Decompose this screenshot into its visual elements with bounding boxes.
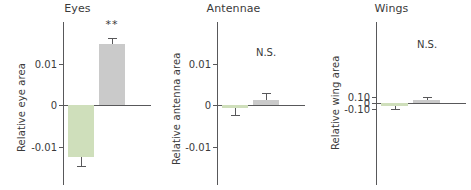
y-tick-wings-1 [372, 103, 376, 104]
y-axis-line-eyes [63, 22, 64, 185]
y-tick-wings-2 [372, 109, 376, 110]
y-tick-eyes-1 [59, 105, 63, 106]
y-tick-label-eyes-2: -0.01 [15, 142, 57, 153]
y-tick-label-eyes-1: 0 [15, 100, 57, 111]
y-tick-antennae-1 [213, 105, 217, 106]
panel-title-wings: Wings [312, 2, 471, 15]
y-tick-antennae-0 [213, 64, 217, 65]
y-tick-wings-0 [372, 97, 376, 98]
error-bar-line-eyes-green [81, 157, 82, 166]
y-tick-eyes-2 [59, 147, 63, 148]
significance-label-wings: N.S. [417, 39, 437, 50]
error-bar-cap-antennae-green [231, 115, 240, 116]
bar-eyes-green [68, 105, 94, 157]
bar-eyes-gray [99, 44, 125, 105]
y-tick-label-antennae-2: -0.01 [169, 142, 211, 153]
y-tick-label-eyes-0: 0.01 [15, 59, 57, 70]
error-bar-line-antennae-gray [266, 93, 267, 99]
error-bar-cap-wings-green [391, 109, 400, 110]
y-tick-eyes-0 [59, 64, 63, 65]
error-bar-cap-wings-gray [423, 97, 432, 98]
bar-antennae-gray [253, 100, 279, 105]
y-tick-label-antennae-0: 0.01 [169, 59, 211, 70]
panel-antennae: AntennaeRelative antenna area0.010-0.01N… [155, 0, 312, 190]
significance-label-antennae: N.S. [256, 47, 276, 58]
figure: EyesRelative eye area0.010-0.01**Antenna… [0, 0, 471, 190]
error-bar-line-antennae-green [235, 108, 236, 115]
error-bar-cap-antennae-gray [262, 93, 271, 94]
y-axis-line-antennae [217, 22, 218, 185]
error-bar-cap-eyes-green [77, 166, 86, 167]
y-tick-label-antennae-1: 0 [169, 100, 211, 111]
error-bar-cap-eyes-gray [108, 38, 117, 39]
panel-title-eyes: Eyes [0, 2, 155, 15]
y-tick-antennae-2 [213, 147, 217, 148]
bar-wings-gray [413, 100, 440, 103]
panel-eyes: EyesRelative eye area0.010-0.01** [0, 0, 155, 190]
panel-wings: WingsRelative wing area0.100-0.10N.S. [312, 0, 471, 190]
y-tick-label-wings-2: -0.10 [328, 104, 370, 115]
panel-title-antennae: Antennae [155, 2, 312, 15]
significance-label-eyes: ** [106, 18, 119, 31]
